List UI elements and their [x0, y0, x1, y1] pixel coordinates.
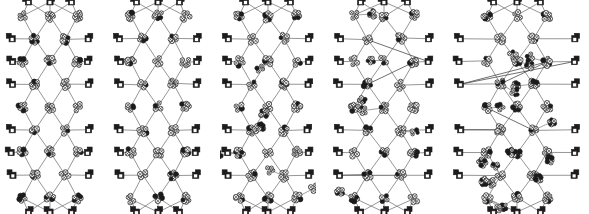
lattice-panel — [220, 0, 316, 214]
lattice-panel — [112, 0, 204, 214]
node-layer — [333, 0, 433, 214]
lattice-panel — [4, 0, 96, 214]
shortcut-edge-layer — [460, 54, 574, 208]
figure-root — [0, 0, 589, 214]
lattice-panel — [452, 0, 582, 214]
lattice-panel — [332, 0, 436, 214]
node-layer — [220, 0, 316, 214]
node-layer — [114, 0, 202, 214]
shortcut-edge-layer — [220, 61, 314, 197]
edge-layer — [459, 2, 575, 212]
node-layer — [5, 0, 93, 214]
